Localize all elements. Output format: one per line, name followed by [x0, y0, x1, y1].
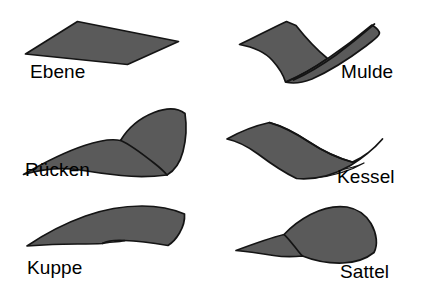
shape-ebene [26, 22, 179, 65]
label-sattel: Sattel [340, 262, 389, 281]
label-mulde: Mulde [341, 62, 393, 81]
label-ruecken: Rücken [25, 160, 90, 179]
label-ebene: Ebene [30, 62, 85, 81]
label-kuppe: Kuppe [27, 258, 82, 277]
shape-sattel [236, 207, 376, 263]
relief-forms-illustration [0, 0, 423, 294]
shape-kuppe [27, 206, 185, 246]
label-kessel: Kessel [337, 167, 395, 186]
relief-forms-figure: Ebene Mulde Rücken Kessel Kuppe Sattel [0, 0, 423, 294]
